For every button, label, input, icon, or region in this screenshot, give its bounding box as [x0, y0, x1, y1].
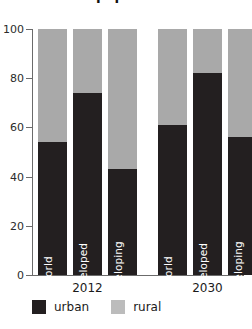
y-tick-label: 0 — [17, 270, 24, 281]
bar-developed-2030[interactable]: Developed — [193, 29, 222, 275]
legend-swatch-icon — [111, 300, 125, 314]
bar-segment-rural — [73, 29, 102, 93]
bar-world-2012[interactable]: World — [38, 29, 67, 275]
plot-area: 100 80 60 40 20 0 World Developed — [32, 29, 244, 275]
y-tick-label: 80 — [10, 73, 24, 84]
legend-swatch-icon — [32, 300, 46, 314]
bar-segment-urban — [158, 125, 187, 275]
bar-developing-2030[interactable]: Developing — [228, 29, 252, 275]
y-tick-mark — [26, 226, 32, 227]
y-tick-mark — [26, 177, 32, 178]
y-tick-label: 20 — [10, 220, 24, 231]
legend-label: rural — [133, 301, 161, 313]
bar-segment-rural — [228, 29, 252, 137]
bar-segment-urban — [38, 142, 67, 275]
y-tick-mark — [26, 127, 32, 128]
y-tick-mark — [26, 29, 32, 30]
legend-item-rural[interactable]: rural — [111, 300, 161, 314]
y-axis-line — [32, 29, 33, 275]
bar-developing-2012[interactable]: Developing — [108, 29, 137, 275]
bar-segment-rural — [38, 29, 67, 142]
legend-label: urban — [54, 301, 89, 313]
group-label-2030: 2030 — [158, 281, 252, 295]
y-tick-label: 40 — [10, 171, 24, 182]
group-label-2012: 2012 — [38, 281, 137, 295]
y-tick-label: 100 — [3, 24, 24, 35]
y-tick-mark — [26, 78, 32, 79]
x-axis-line — [32, 275, 244, 276]
bar-world-2030[interactable]: World — [158, 29, 187, 275]
bar-segment-rural — [193, 29, 222, 73]
legend-item-urban[interactable]: urban — [32, 300, 89, 314]
bar-segment-rural — [158, 29, 187, 125]
y-tick-mark — [26, 275, 32, 276]
bar-developed-2012[interactable]: Developed — [73, 29, 102, 275]
y-tick-label: 60 — [10, 122, 24, 133]
chart-container: population 100 80 60 40 20 0 World — [0, 0, 252, 329]
bar-segment-rural — [108, 29, 137, 169]
chart-title: population — [96, 0, 252, 3]
chart-legend: urban rural — [32, 300, 161, 314]
